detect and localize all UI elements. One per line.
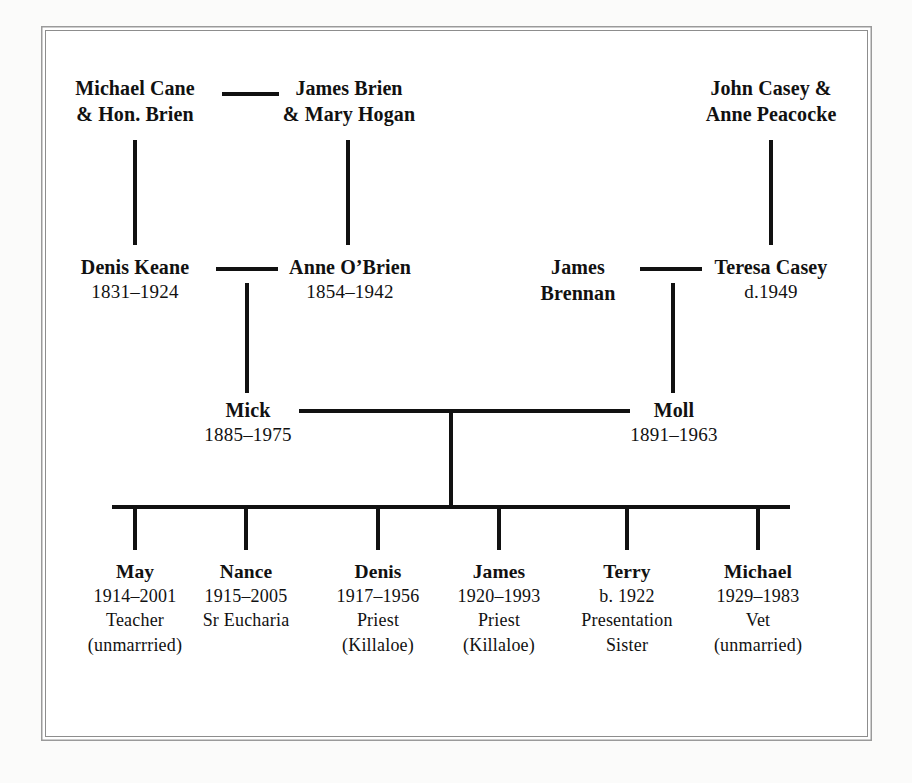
- person-name: Moll: [630, 397, 717, 423]
- person-occupation: Sr Eucharia: [203, 608, 290, 632]
- node-james-brien-mary-hogan: James Brien & Mary Hogan: [283, 75, 415, 127]
- page-background: Michael Cane & Hon. Brien James Brien & …: [0, 0, 912, 783]
- person-occupation: Presentation: [581, 608, 672, 632]
- person-note: (unmarried): [714, 633, 802, 657]
- descent-line-casey-to-teresa-casey: [769, 140, 773, 245]
- descent-line-keane-obrien-to-mick: [245, 283, 249, 393]
- person-dates: 1885–1975: [204, 423, 291, 448]
- person-name: Denis: [337, 559, 420, 584]
- person-name: Denis Keane: [81, 254, 189, 280]
- person-name: Teresa Casey: [715, 254, 828, 280]
- person-dates: 1914–2001: [88, 584, 182, 608]
- node-child-may: May 1914–2001 Teacher (unmarrried): [88, 559, 182, 657]
- person-note: (Killaloe): [337, 633, 420, 657]
- node-line-1: Michael Cane: [75, 75, 195, 101]
- descent-line-mick-moll-to-children: [449, 409, 453, 507]
- node-john-casey-anne-peacocke: John Casey & Anne Peacocke: [706, 75, 837, 127]
- node-child-michael: Michael 1929–1983 Vet (unmarried): [714, 559, 802, 657]
- node-anne-obrien: Anne O’Brien 1854–1942: [289, 254, 411, 305]
- person-dates: b. 1922: [581, 584, 672, 608]
- person-dates: 1831–1924: [81, 280, 189, 305]
- node-line-2: Anne Peacocke: [706, 101, 837, 127]
- node-teresa-casey: Teresa Casey d.1949: [715, 254, 828, 305]
- person-name: Nance: [203, 559, 290, 584]
- node-line-1: James Brien: [283, 75, 415, 101]
- node-denis-keane: Denis Keane 1831–1924: [81, 254, 189, 305]
- node-mick: Mick 1885–1975: [204, 397, 291, 448]
- descent-line-cane-to-denis-keane: [133, 140, 137, 245]
- marriage-line-cane-brien: [222, 92, 279, 96]
- person-dates: 1891–1963: [630, 423, 717, 448]
- node-line-1: James: [541, 254, 616, 280]
- person-dates: 1915–2005: [203, 584, 290, 608]
- person-name: Michael: [714, 559, 802, 584]
- node-line-2: Brennan: [541, 280, 616, 306]
- node-line-2: & Mary Hogan: [283, 101, 415, 127]
- node-line-2: & Hon. Brien: [75, 101, 195, 127]
- person-occupation: Vet: [714, 608, 802, 632]
- person-note: (Killaloe): [458, 633, 541, 657]
- child-stem-2: [244, 505, 248, 550]
- person-name: Mick: [204, 397, 291, 423]
- node-moll: Moll 1891–1963: [630, 397, 717, 448]
- node-child-denis: Denis 1917–1956 Priest (Killaloe): [337, 559, 420, 657]
- node-child-nance: Nance 1915–2005 Sr Eucharia: [203, 559, 290, 633]
- node-james-brennan: James Brennan: [541, 254, 616, 306]
- person-dates: 1854–1942: [289, 280, 411, 305]
- child-stem-3: [376, 505, 380, 550]
- person-dates: d.1949: [715, 280, 828, 305]
- sibling-bar: [112, 505, 790, 509]
- child-stem-5: [625, 505, 629, 550]
- child-stem-4: [497, 505, 501, 550]
- person-occupation: Priest: [337, 608, 420, 632]
- child-stem-6: [756, 505, 760, 550]
- descent-line-brien-to-anne-obrien: [346, 140, 350, 245]
- person-note: (unmarrried): [88, 633, 182, 657]
- person-dates: 1929–1983: [714, 584, 802, 608]
- child-stem-1: [133, 505, 137, 550]
- marriage-line-brennan-casey: [640, 267, 702, 271]
- person-name: May: [88, 559, 182, 584]
- person-name: Anne O’Brien: [289, 254, 411, 280]
- person-occupation: Teacher: [88, 608, 182, 632]
- marriage-line-keane-obrien: [216, 267, 278, 271]
- person-name: James: [458, 559, 541, 584]
- person-note: Sister: [581, 633, 672, 657]
- node-child-james: James 1920–1993 Priest (Killaloe): [458, 559, 541, 657]
- descent-line-brennan-casey-to-moll: [671, 283, 675, 393]
- person-occupation: Priest: [458, 608, 541, 632]
- family-tree-canvas: Michael Cane & Hon. Brien James Brien & …: [0, 0, 912, 783]
- node-child-terry: Terry b. 1922 Presentation Sister: [581, 559, 672, 657]
- node-line-1: John Casey &: [706, 75, 837, 101]
- person-dates: 1920–1993: [458, 584, 541, 608]
- person-name: Terry: [581, 559, 672, 584]
- marriage-line-mick-moll: [299, 409, 630, 413]
- node-michael-cane-hon-brien: Michael Cane & Hon. Brien: [75, 75, 195, 127]
- person-dates: 1917–1956: [337, 584, 420, 608]
